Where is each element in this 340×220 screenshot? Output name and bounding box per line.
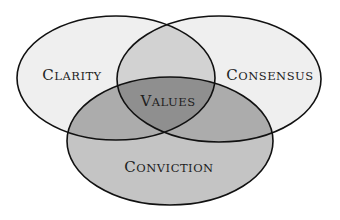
label-values: VALUES [139, 92, 195, 110]
label-conviction: CONVICTION [124, 158, 213, 176]
label-consensus: CONSENSUS [226, 66, 313, 84]
venn-diagram: CLARITY CONSENSUS VALUES CONVICTION [0, 0, 340, 220]
label-clarity: CLARITY [42, 66, 101, 84]
